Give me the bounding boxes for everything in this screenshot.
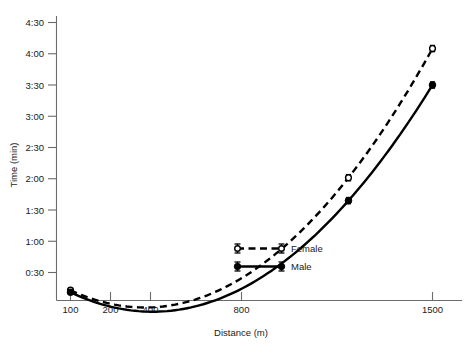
data-point-open-circle <box>346 175 352 181</box>
x-tick-label: 400 <box>143 304 159 315</box>
data-point-filled-circle <box>429 82 436 89</box>
legend-marker-open-circle <box>235 246 241 252</box>
legend: Female Male <box>234 243 322 272</box>
y-tick-label: 3:00 <box>26 111 45 122</box>
y-tick-label: 2:00 <box>26 173 45 184</box>
x-axis-ticks <box>71 292 433 301</box>
data-point-open-circle <box>430 46 436 52</box>
data-point-filled-circle <box>345 197 352 204</box>
series-line-female <box>71 49 433 308</box>
legend-marker-filled-circle <box>234 263 240 269</box>
series-female <box>68 45 436 307</box>
y-axis-tick-labels: 0:30 1:00 1:30 2:00 2:30 3:00 3:30 4:00 … <box>26 17 45 278</box>
series-male <box>67 82 436 312</box>
y-axis-title: Time (min) <box>8 142 19 187</box>
series-line-male <box>71 85 433 312</box>
legend-label-female: Female <box>291 243 323 254</box>
y-tick-label: 1:30 <box>26 205 45 216</box>
chart-container: 0:30 1:00 1:30 2:00 2:30 3:00 3:30 4:00 … <box>0 0 465 345</box>
x-axis-title: Distance (m) <box>214 327 268 338</box>
line-chart: 0:30 1:00 1:30 2:00 2:30 3:00 3:30 4:00 … <box>0 0 465 345</box>
x-tick-label: 1500 <box>422 304 443 315</box>
y-tick-label: 1:00 <box>26 236 45 247</box>
data-point-filled-circle <box>67 289 74 296</box>
plot-data-layer <box>67 45 436 311</box>
legend-label-male: Male <box>291 261 312 272</box>
y-tick-label: 3:30 <box>26 80 45 91</box>
y-tick-label: 2:30 <box>26 142 45 153</box>
y-tick-label: 4:00 <box>26 48 45 59</box>
y-axis-ticks <box>48 23 57 273</box>
x-tick-label: 100 <box>63 304 79 315</box>
legend-marker-open-circle <box>279 246 285 252</box>
legend-marker-filled-circle <box>278 263 284 269</box>
y-tick-label: 0:30 <box>26 267 45 278</box>
legend-entry-female[interactable]: Female <box>235 243 323 254</box>
x-tick-label: 800 <box>234 304 250 315</box>
y-tick-label: 4:30 <box>26 17 45 28</box>
